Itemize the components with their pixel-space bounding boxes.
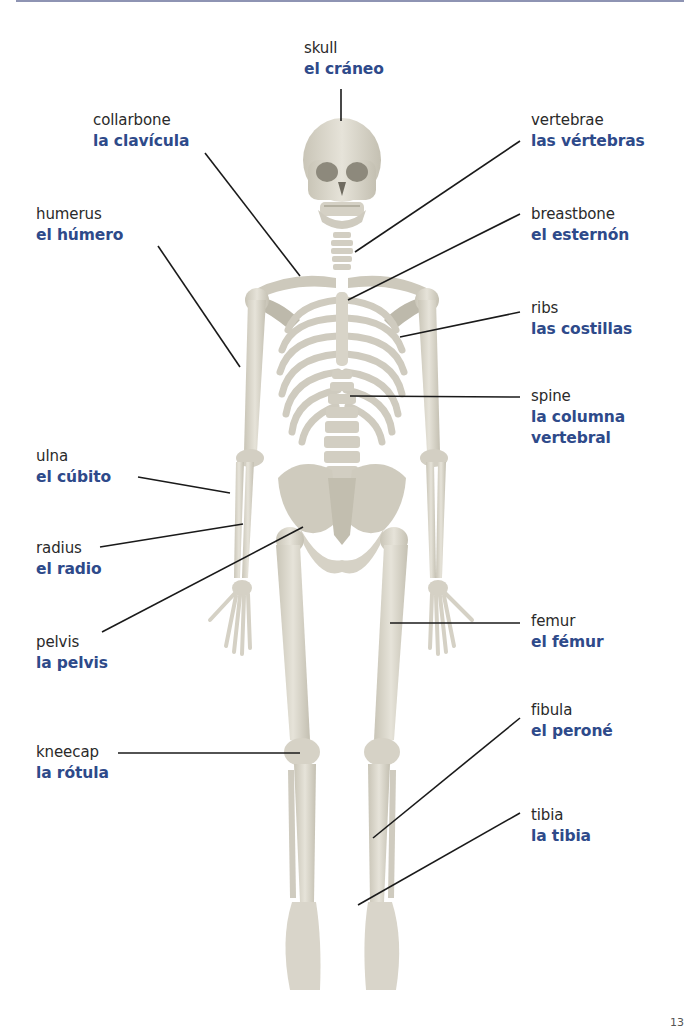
pelvis-leader xyxy=(102,527,303,632)
label-ulna-en: ulna xyxy=(36,446,111,467)
label-humerus-en: humerus xyxy=(36,204,123,225)
label-breastbone-es: el esternón xyxy=(531,225,629,246)
label-radius: radius el radio xyxy=(36,538,102,580)
label-ulna-es: el cúbito xyxy=(36,467,111,488)
skull-icon xyxy=(303,118,381,229)
left-hand-icon xyxy=(210,580,252,654)
breastbone-leader xyxy=(348,214,520,300)
label-fibula-es: el peroné xyxy=(531,721,613,742)
label-ulna: ulna el cúbito xyxy=(36,446,111,488)
ribs-leader xyxy=(400,312,520,337)
sternum-icon xyxy=(336,292,348,366)
label-femur-es: el fémur xyxy=(531,632,604,653)
label-fibula-en: fibula xyxy=(531,700,613,721)
neck-vertebrae-icon xyxy=(331,232,353,270)
right-arm-icon xyxy=(415,288,448,578)
label-radius-en: radius xyxy=(36,538,102,559)
label-pelvis-en: pelvis xyxy=(36,632,108,653)
label-kneecap-es: la rótula xyxy=(36,763,109,784)
ulna-leader xyxy=(138,477,230,493)
label-vertebrae-es: las vértebras xyxy=(531,131,645,152)
label-spine-en: spine xyxy=(531,386,625,407)
label-tibia-es: la tibia xyxy=(531,826,591,847)
label-spine: spine la columna vertebral xyxy=(531,386,625,449)
label-tibia: tibia la tibia xyxy=(531,805,591,847)
label-humerus: humerus el húmero xyxy=(36,204,123,246)
label-fibula: fibula el peroné xyxy=(531,700,613,742)
label-vertebrae: vertebrae las vértebras xyxy=(531,110,645,152)
spine-leader xyxy=(350,396,520,397)
label-spine-es-line2: vertebral xyxy=(531,428,625,449)
label-skull: skull el cráneo xyxy=(304,38,384,80)
right-leg-icon xyxy=(364,527,408,990)
label-kneecap: kneecap la rótula xyxy=(36,742,109,784)
label-skull-es: el cráneo xyxy=(304,59,384,80)
label-collarbone: collarbone la clavícula xyxy=(93,110,189,152)
label-pelvis-es: la pelvis xyxy=(36,653,108,674)
label-ribs: ribs las costillas xyxy=(531,298,632,340)
label-spine-es-line1: la columna xyxy=(531,407,625,428)
collarbone-leader xyxy=(205,153,300,276)
skeleton-illustration xyxy=(0,0,684,1031)
label-vertebrae-en: vertebrae xyxy=(531,110,645,131)
humerus-leader xyxy=(158,246,240,367)
label-radius-es: el radio xyxy=(36,559,102,580)
label-femur: femur el fémur xyxy=(531,611,604,653)
label-pelvis: pelvis la pelvis xyxy=(36,632,108,674)
left-leg-icon xyxy=(276,527,321,990)
right-hand-icon xyxy=(428,580,472,654)
label-breastbone: breastbone el esternón xyxy=(531,204,629,246)
label-collarbone-es: la clavícula xyxy=(93,131,189,152)
label-kneecap-en: kneecap xyxy=(36,742,109,763)
page-number: 13 xyxy=(670,1016,684,1029)
label-ribs-es: las costillas xyxy=(531,319,632,340)
label-femur-en: femur xyxy=(531,611,604,632)
label-humerus-es: el húmero xyxy=(36,225,123,246)
label-collarbone-en: collarbone xyxy=(93,110,189,131)
left-arm-icon xyxy=(234,288,269,578)
label-ribs-en: ribs xyxy=(531,298,632,319)
label-tibia-en: tibia xyxy=(531,805,591,826)
radius-leader xyxy=(100,524,243,547)
label-skull-en: skull xyxy=(304,38,384,59)
label-breastbone-en: breastbone xyxy=(531,204,629,225)
skeleton-diagram: skull el cráneo collarbone la clavícula … xyxy=(0,0,684,1031)
lumbar-spine-icon xyxy=(324,370,360,478)
